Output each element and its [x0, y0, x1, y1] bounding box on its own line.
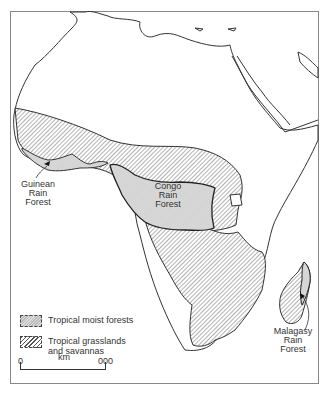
savanna-south	[145, 217, 265, 346]
congo-label-line: Forest	[150, 200, 186, 209]
gulf-coast	[298, 52, 318, 78]
scale-bar	[20, 362, 106, 370]
legend-label: Tropical moist forests	[48, 315, 133, 325]
congo-label: Congo Rain Forest	[150, 182, 186, 209]
moist-forest-swatch	[20, 315, 42, 327]
malagasy-label-line: Forest	[270, 345, 316, 354]
lake-victoria	[230, 194, 242, 206]
mediterranean-islands	[195, 28, 236, 31]
guinean-label-line: Forest	[18, 198, 58, 207]
guinean-leader-line	[36, 166, 47, 178]
grassland-swatch	[20, 336, 42, 348]
legend-item-moist-forest: Tropical moist forests	[20, 315, 133, 327]
legend-label-line: Tropical grasslands	[48, 336, 126, 346]
scale-end: 000	[98, 356, 113, 366]
scale-unit: km	[58, 352, 70, 362]
sinai-coast	[237, 56, 290, 125]
legend-item-grassland: Tropical grasslands and savannas	[20, 336, 126, 356]
scale-start: 0	[18, 356, 23, 366]
guinean-label: Guinean Rain Forest	[18, 180, 58, 207]
malagasy-label: Malagasy Rain Forest	[270, 327, 316, 354]
